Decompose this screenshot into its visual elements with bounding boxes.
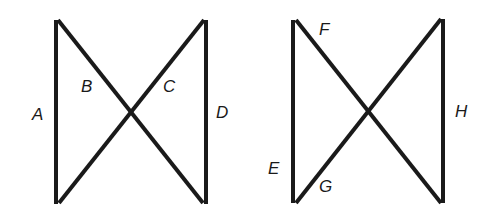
label-c: C	[163, 78, 175, 95]
line-figures	[0, 0, 493, 220]
label-e: E	[268, 160, 279, 177]
diagram-canvas: A B C D E F G H	[0, 0, 493, 220]
label-f: F	[319, 21, 329, 38]
right-figure	[293, 19, 443, 203]
left-figure	[56, 20, 206, 204]
label-d: D	[216, 104, 228, 121]
label-a: A	[32, 106, 43, 123]
label-g: G	[319, 178, 332, 195]
label-h: H	[455, 103, 467, 120]
label-b: B	[81, 78, 92, 95]
